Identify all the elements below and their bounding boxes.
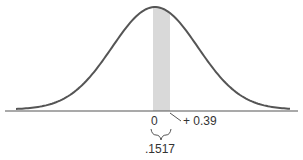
normal-curve-chart [0, 0, 303, 160]
zero-label: 0 [151, 115, 158, 127]
shaded-area [153, 0, 170, 111]
leader-line [170, 113, 181, 121]
z-value-label: + 0.39 [183, 115, 217, 127]
brace [151, 129, 171, 140]
area-label: .1517 [145, 143, 175, 155]
